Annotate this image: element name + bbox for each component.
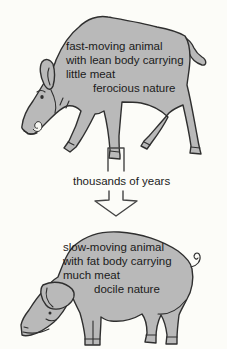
pig-tail [191,253,200,267]
caption-line: slow-moving animal [63,240,172,254]
boar-hoof-lines [68,142,200,152]
pig-eye [49,312,52,315]
caption-line: ferocious nature [66,81,184,95]
transition-caption: thousands of years [73,174,170,188]
caption-line: with lean body carrying [66,53,184,67]
caption-line: little meat [66,67,184,81]
domestic-pig-caption: slow-moving animal with fat body carryin… [63,240,172,296]
caption-line: with fat body carrying [63,254,172,268]
evolution-diagram: fast-moving animal with lean body carryi… [0,0,227,349]
boar-eye [40,95,43,99]
caption-line: docile nature [63,282,172,296]
caption-line: much meat [63,268,172,282]
wild-boar-caption: fast-moving animal with lean body carryi… [66,39,184,95]
caption-line: fast-moving animal [66,39,184,53]
arrow-head [95,191,137,216]
